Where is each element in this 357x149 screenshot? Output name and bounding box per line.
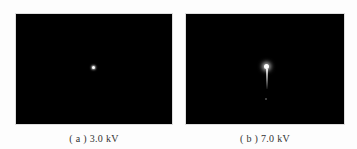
panel-a-image [16,14,172,124]
panel-b-caption: ( b ) 7.0 kV [205,133,325,144]
panel-a-caption: ( a ) 3.0 kV [34,133,154,144]
emission-streak [266,69,268,89]
faint-spot [265,98,267,100]
panel-b-image [186,14,344,124]
emission-spot [92,66,95,69]
